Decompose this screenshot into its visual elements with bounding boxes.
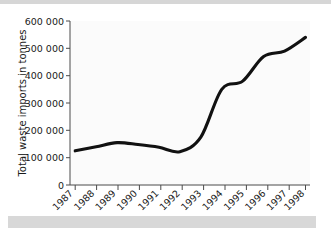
x-tick-label: 1998	[282, 188, 307, 213]
x-tick-label: 1995	[221, 188, 246, 213]
y-axis-tick-marks	[66, 21, 70, 185]
y-axis-tick-labels: 600 000 500 000 400 000 300 000 200 000 …	[25, 16, 64, 191]
x-tick-label: 1993	[179, 188, 204, 213]
plot-area-background	[70, 21, 310, 185]
y-tick-label: 400 000	[25, 70, 64, 81]
x-tick-label: 1996	[243, 188, 268, 213]
y-tick-label: 0	[58, 180, 64, 191]
y-axis-title: Total waste imports in tonnes	[17, 29, 28, 177]
y-tick-label: 600 000	[25, 16, 64, 27]
x-tick-label: 1988	[72, 188, 97, 213]
y-tick-label: 200 000	[25, 125, 64, 136]
chart-figure: 600 000 500 000 400 000 300 000 200 000 …	[0, 0, 331, 232]
x-tick-label: 1994	[200, 188, 225, 213]
x-tick-label: 1987	[50, 188, 75, 213]
line-chart: 600 000 500 000 400 000 300 000 200 000 …	[0, 0, 331, 232]
y-tick-label: 300 000	[25, 98, 64, 109]
y-tick-label: 100 000	[25, 152, 64, 163]
x-tick-label: 1990	[114, 188, 139, 213]
x-tick-label: 1989	[93, 188, 118, 213]
x-tick-label: 1992	[157, 188, 182, 213]
x-axis-tick-labels: 1987 1988 1989 1990 1991 1992 1993 1994 …	[50, 188, 306, 213]
y-tick-label: 500 000	[25, 43, 64, 54]
x-tick-label: 1991	[136, 188, 161, 213]
